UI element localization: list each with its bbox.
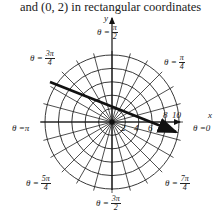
pole-point [110,120,115,125]
angle-label-3pi-over-4: θ = 3π4 [30,50,55,67]
radial-tick-8: 8 [163,111,168,120]
radial-tick-2: 2 [121,124,126,133]
angle-label-pi-over-4: θ = π4 [164,54,185,71]
radial-tick-6: 6 [148,124,153,133]
angle-label-pi-over-2: θ = π2 [97,24,118,41]
angle-label-5pi-over-4: θ = 5π4 [26,175,51,192]
y-axis-label: y [104,14,108,23]
x-axis-label: x [208,111,212,120]
angle-label-pi: θ = π [12,124,29,133]
angle-label-7pi-over-4: θ = 7π4 [165,175,190,192]
angle-label-3pi-over-2: θ = 3π2 [96,195,121,212]
angle-label-0: θ = 0 [193,124,210,133]
radial-tick-4: 4 [134,124,139,133]
radial-tick-10: 10 [172,111,181,120]
